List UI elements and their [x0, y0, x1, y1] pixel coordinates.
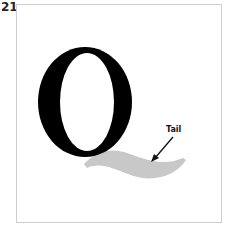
- q-bowl-inner: [60, 53, 114, 151]
- annotation-arrow-line: [155, 137, 173, 158]
- letter-q-illustration: [0, 0, 228, 227]
- tail-label: Tail: [166, 125, 181, 134]
- q-tail-shape: [84, 151, 186, 179]
